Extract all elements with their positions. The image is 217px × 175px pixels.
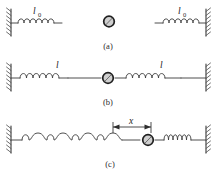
spring-left-b	[11, 74, 101, 79]
ball-b	[103, 73, 114, 84]
wall-left-a	[7, 8, 12, 36]
panel-a: l 0 l 0	[7, 6, 211, 51]
label-l-right-a-sub: 0	[183, 11, 186, 18]
label-l0-left-a: l 0	[33, 6, 41, 18]
label-l-left-a: l	[33, 6, 36, 16]
label-l-right-b: l	[160, 60, 163, 70]
wall-right-c	[206, 125, 211, 153]
wall-left-c	[7, 125, 12, 153]
panel-c: x (	[7, 116, 211, 169]
wall-right-b	[206, 63, 211, 91]
spring-right-c	[155, 135, 206, 140]
caption-a: (a)	[103, 41, 113, 51]
label-l0-right-a: l 0	[178, 6, 186, 18]
ball-c	[143, 135, 154, 146]
label-l-right-a: l	[178, 6, 181, 16]
figure-svg: l 0 l 0	[0, 0, 217, 175]
physics-figure: l 0 l 0	[0, 0, 217, 175]
panel-b: l l	[7, 60, 211, 107]
wall-right-a	[206, 8, 211, 36]
caption-c: (c)	[105, 159, 115, 169]
spring-right-b	[115, 74, 206, 79]
caption-b: (b)	[103, 97, 113, 107]
wall-left-b	[7, 63, 12, 91]
spring-left-c	[11, 133, 140, 140]
label-l-left-a-sub: 0	[38, 11, 41, 18]
label-l-left-b: l	[56, 60, 59, 70]
label-x-c: x	[128, 116, 134, 126]
spring-right-a	[155, 19, 206, 23]
ball-a	[104, 16, 115, 27]
spring-left-a	[11, 19, 62, 23]
displacement-dimension-x: x	[113, 116, 151, 133]
